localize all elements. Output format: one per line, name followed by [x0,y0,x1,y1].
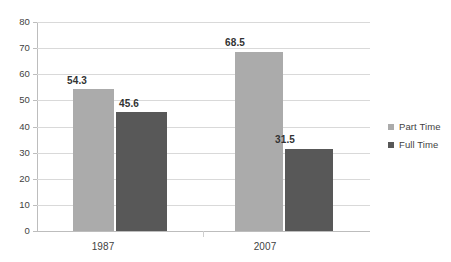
bar-1987-full-time[interactable] [116,112,167,231]
y-axis-tick-group: 60 [0,69,30,79]
bar-chart: 80 70 60 50 40 30 20 10 0 54.3 45.6 68. [0,0,451,262]
y-axis-tick-group: 20 [0,174,30,184]
y-axis-tick-label: 50 [6,95,30,105]
y-axis-tick-group: 0 [0,226,30,236]
category-separator [203,231,204,237]
legend: Part Time Full Time [388,118,441,154]
data-label-2007-part-time: 68.5 [211,38,259,48]
y-axis-tick-group: 10 [0,200,30,210]
legend-label-full-time: Full Time [399,140,438,150]
y-axis-tick-group: 30 [0,148,30,158]
y-axis-tick-group: 40 [0,122,30,132]
y-axis-tick-group: 70 [0,43,30,53]
legend-swatch-icon [388,142,394,148]
plot-area [37,22,370,231]
y-axis-tick-label: 10 [6,200,30,210]
y-axis-tick-label: 60 [6,69,30,79]
legend-swatch-icon [388,124,394,130]
data-label-1987-part-time: 54.3 [53,76,101,86]
y-axis-tick-label: 80 [6,17,30,27]
y-axis-tick-label: 20 [6,174,30,184]
data-label-1987-full-time: 45.6 [104,99,154,109]
bar-1987-part-time[interactable] [73,89,114,231]
bar-2007-full-time[interactable] [285,149,333,231]
legend-label-part-time: Part Time [399,122,441,132]
legend-item-full-time[interactable]: Full Time [388,136,441,154]
data-label-2007-full-time: 31.5 [261,135,309,145]
gridline-70 [37,48,370,49]
y-axis-tick-group: 50 [0,95,30,105]
y-axis-tick-label: 70 [6,43,30,53]
gridline-80 [37,22,370,23]
x-axis-label-2007: 2007 [220,242,310,252]
x-axis-label-1987: 1987 [58,242,148,252]
y-axis-tick-label: 0 [6,226,30,236]
y-axis-tick-group: 80 [0,17,30,27]
y-axis-tick-label: 40 [6,122,30,132]
y-axis-tick-label: 30 [6,148,30,158]
legend-item-part-time[interactable]: Part Time [388,118,441,136]
